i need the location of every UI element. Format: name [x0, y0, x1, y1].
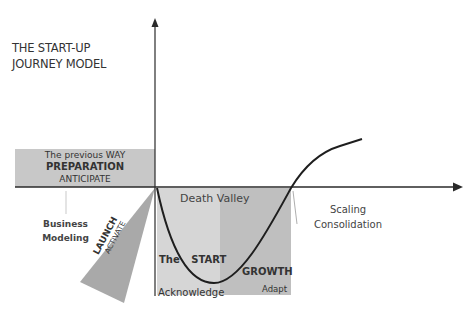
start-the: The	[159, 254, 180, 265]
business-modeling-line-2: Modeling	[28, 231, 103, 245]
death-valley-label: Death Valley	[180, 192, 250, 205]
start-title: START	[191, 254, 226, 265]
x-axis-arrow-icon	[453, 183, 463, 192]
acknowledge-label: Acknowledge	[158, 287, 224, 298]
business-modeling-line-1: Business	[28, 217, 103, 231]
diagram-title: THE START-UP JOURNEY MODEL	[12, 40, 106, 72]
business-modeling-label: Business Modeling	[28, 217, 103, 245]
scaling-line-1: Scaling	[303, 202, 393, 217]
growth-label: GROWTH	[242, 266, 293, 277]
start-label: The START	[159, 254, 226, 265]
scaling-label: Scaling Consolidation	[303, 202, 393, 232]
scaling-pointer	[293, 191, 297, 224]
preparation-anticipate: ANTICIPATE	[15, 173, 155, 185]
preparation-title: PREPARATION	[15, 161, 155, 173]
scaling-line-2: Consolidation	[303, 217, 393, 232]
title-line-2: JOURNEY MODEL	[12, 56, 106, 72]
title-line-1: THE START-UP	[12, 40, 106, 56]
y-axis-arrow-icon	[152, 18, 159, 27]
preparation-previous-way: The previous WAY	[15, 149, 155, 161]
launch-triangle	[80, 188, 155, 303]
adapt-label: Adapt	[262, 284, 287, 294]
preparation-label: The previous WAY PREPARATION ANTICIPATE	[15, 149, 155, 185]
